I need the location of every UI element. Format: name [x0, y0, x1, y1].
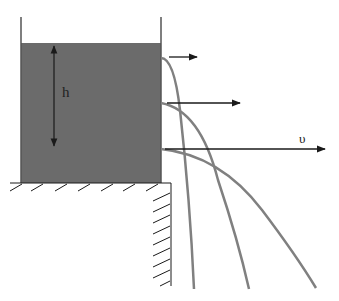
water-body	[21, 43, 161, 183]
bottom-jet-stream	[161, 149, 316, 288]
top-jet-stream	[161, 58, 194, 289]
torricelli-diagram: h υ	[0, 0, 339, 301]
ground-hatching	[10, 183, 171, 286]
middle-jet-stream	[161, 103, 249, 289]
velocity-label: υ	[299, 131, 305, 146]
height-label: h	[62, 84, 70, 100]
